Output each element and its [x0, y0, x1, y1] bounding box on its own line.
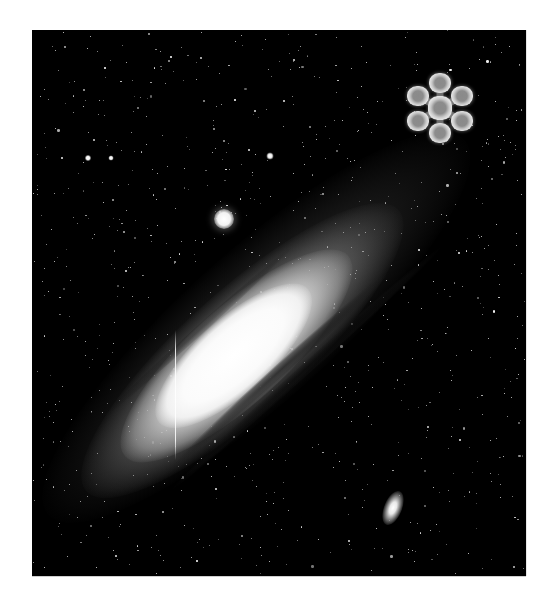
star: [406, 370, 408, 372]
rosette-node-icon[interactable]: [429, 73, 451, 93]
star: [397, 379, 399, 381]
star: [123, 231, 125, 233]
star: [260, 547, 261, 548]
star: [63, 32, 64, 33]
star: [59, 297, 61, 299]
star: [290, 69, 291, 70]
star: [55, 128, 56, 129]
star: [372, 387, 373, 388]
star: [517, 180, 518, 181]
star: [521, 110, 522, 111]
star: [309, 126, 311, 128]
star: [73, 217, 74, 218]
star: [361, 46, 362, 47]
star: [301, 192, 302, 193]
star: [337, 395, 338, 396]
star: [55, 404, 56, 405]
rosette-node-icon[interactable]: [407, 86, 429, 106]
star: [335, 65, 337, 67]
star: [62, 386, 63, 387]
star: [408, 409, 409, 410]
star: [429, 402, 431, 404]
star: [44, 133, 45, 134]
rosette-node-icon[interactable]: [407, 111, 429, 131]
star: [71, 419, 72, 420]
bright-star: [85, 155, 91, 161]
star: [132, 80, 133, 81]
star: [288, 510, 289, 511]
rosette-node-icon[interactable]: [451, 86, 473, 106]
star: [494, 260, 495, 261]
star: [69, 82, 70, 83]
star: [226, 152, 227, 153]
star: [351, 421, 353, 423]
star: [215, 488, 217, 490]
star: [482, 146, 484, 148]
star: [216, 106, 217, 107]
star: [183, 80, 184, 81]
star: [102, 182, 103, 183]
star: [427, 426, 429, 428]
star: [104, 115, 105, 116]
rosette-center-icon[interactable]: [428, 96, 452, 120]
star: [193, 528, 194, 529]
star: [405, 37, 406, 38]
bright-star: [267, 153, 274, 160]
star: [128, 267, 129, 268]
star: [517, 316, 518, 317]
star: [431, 559, 433, 561]
star: [119, 526, 120, 527]
star: [37, 189, 38, 190]
star: [283, 126, 284, 127]
rosette-node-icon[interactable]: [429, 123, 451, 143]
star: [165, 83, 167, 85]
star: [228, 143, 229, 144]
star: [73, 329, 75, 331]
star: [271, 76, 272, 77]
star: [67, 556, 68, 557]
star: [44, 89, 45, 90]
star: [89, 367, 90, 368]
star: [234, 99, 236, 101]
star: [109, 226, 110, 227]
star: [427, 430, 428, 431]
star: [134, 96, 135, 97]
star: [99, 100, 100, 101]
star: [143, 275, 144, 276]
star: [357, 131, 358, 132]
star: [496, 224, 497, 225]
star: [117, 559, 118, 560]
star: [501, 52, 502, 53]
star: [390, 65, 391, 66]
star: [66, 249, 67, 250]
star: [446, 544, 447, 545]
star: [218, 539, 219, 540]
star: [172, 508, 173, 509]
star: [78, 173, 79, 174]
star: [449, 64, 450, 65]
star: [194, 254, 195, 255]
star: [349, 107, 350, 108]
star: [510, 142, 511, 143]
star: [110, 60, 112, 62]
star: [222, 159, 223, 160]
star: [463, 427, 465, 429]
star: [515, 348, 516, 349]
star: [521, 273, 522, 274]
star: [266, 501, 267, 502]
star: [357, 469, 358, 470]
star: [312, 174, 314, 176]
star: [481, 268, 483, 270]
star: [524, 301, 525, 302]
star: [401, 293, 402, 294]
star: [53, 422, 54, 423]
star: [281, 529, 282, 530]
star: [114, 250, 116, 252]
star: [92, 238, 93, 239]
star: [115, 555, 117, 557]
star: [347, 158, 348, 159]
star: [357, 97, 358, 98]
rosette-node-icon[interactable]: [451, 111, 473, 131]
star: [268, 69, 269, 70]
bright-star: [109, 156, 114, 161]
